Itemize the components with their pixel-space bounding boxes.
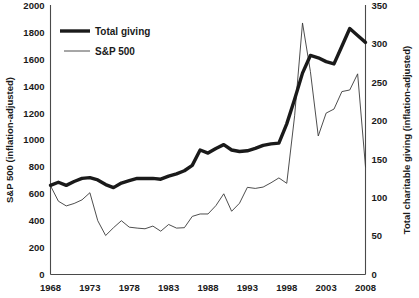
bottom-tick-label: 1993 bbox=[237, 282, 258, 293]
right-tick-label: 100 bbox=[372, 192, 388, 203]
left-tick-label: 400 bbox=[29, 215, 45, 226]
bottom-tick-label: 1998 bbox=[276, 282, 297, 293]
right-tick-label: 50 bbox=[372, 230, 383, 241]
bottom-tick-label: 2003 bbox=[316, 282, 337, 293]
left-tick-label: 200 bbox=[29, 242, 45, 253]
bottom-tick-label: 2008 bbox=[355, 282, 376, 293]
legend-label-sp500: S&P 500 bbox=[95, 46, 135, 57]
bottom-tick-label: 1978 bbox=[119, 282, 140, 293]
right-tick-label: 350 bbox=[372, 0, 388, 11]
bottom-tick-label: 1968 bbox=[40, 282, 61, 293]
line-chart: 0200400600800100012001400160018002000 05… bbox=[0, 0, 419, 298]
right-axis-title: Total charitable giving (inflation-adjus… bbox=[401, 46, 412, 234]
right-tick-label: 0 bbox=[372, 269, 377, 280]
left-tick-label: 1200 bbox=[23, 108, 44, 119]
bottom-tick-label: 1983 bbox=[158, 282, 179, 293]
bottom-tick-label: 1973 bbox=[79, 282, 100, 293]
left-tick-label: 1600 bbox=[23, 54, 44, 65]
left-tick-label: 2000 bbox=[23, 0, 44, 11]
left-tick-label: 1000 bbox=[23, 134, 44, 145]
chart-background bbox=[0, 0, 419, 298]
left-axis-title: S&P 500 (inflation-adjusted) bbox=[4, 77, 15, 203]
left-tick-label: 1400 bbox=[23, 81, 44, 92]
left-tick-label: 800 bbox=[29, 161, 45, 172]
left-tick-label: 600 bbox=[29, 188, 45, 199]
left-tick-label: 1800 bbox=[23, 27, 44, 38]
right-tick-label: 150 bbox=[372, 154, 388, 165]
left-tick-label: 0 bbox=[39, 269, 44, 280]
chart-container: 0200400600800100012001400160018002000 05… bbox=[0, 0, 419, 298]
bottom-tick-label: 1988 bbox=[197, 282, 218, 293]
bottom-axis-ticks: 196819731978198319881993199820032008 bbox=[40, 282, 376, 293]
right-tick-label: 300 bbox=[372, 38, 388, 49]
right-tick-label: 250 bbox=[372, 77, 388, 88]
right-tick-label: 200 bbox=[372, 115, 388, 126]
legend-label-total-giving: Total giving bbox=[95, 26, 150, 37]
